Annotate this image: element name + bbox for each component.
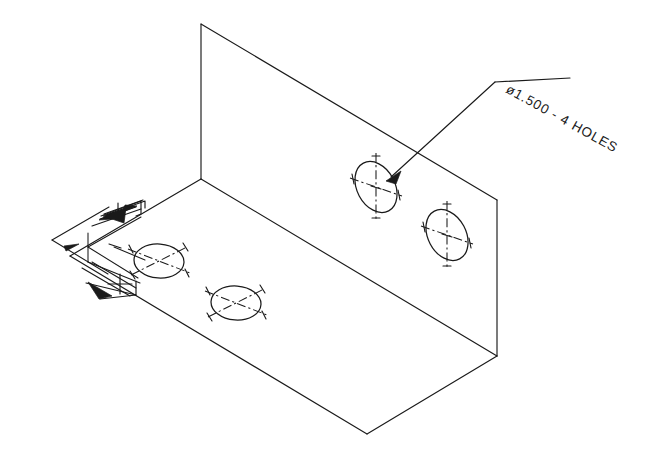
base-face-left-edge xyxy=(70,179,201,256)
extension-line-inner-upper xyxy=(88,217,141,247)
hole-note-text: ø1.500 - 4 HOLES xyxy=(504,82,621,156)
hole-note-leader-group: ø1.500 - 4 HOLES xyxy=(386,78,621,184)
centerline-tick-left-a xyxy=(129,245,133,253)
centerline-tick-right-a xyxy=(185,269,189,277)
hole-group-vertical xyxy=(347,153,477,269)
base-face-front-left-edge xyxy=(70,256,367,434)
leader-shoulder xyxy=(495,78,570,82)
hole-vertical-left xyxy=(347,153,406,221)
leader-arrow-head xyxy=(386,171,401,184)
hole-vertical-right xyxy=(418,201,477,269)
hole-horizontal-right xyxy=(205,284,267,321)
extension-line-inner-lower xyxy=(88,247,138,278)
centerline-tick-right-b xyxy=(260,285,265,293)
base-face-front-right-edge xyxy=(367,356,497,434)
centerline-tick-right-a xyxy=(262,311,266,319)
centerline-tick-left-b xyxy=(207,313,212,321)
hole-group-horizontal xyxy=(128,242,267,321)
centerline-tick-right-b xyxy=(183,243,188,251)
dimension-connector-line-lower xyxy=(88,262,140,283)
hole-horizontal-left xyxy=(128,242,190,279)
inner-corner-fold-line xyxy=(201,179,497,356)
centerline-tick-left-a xyxy=(206,287,210,295)
cad-drawing-canvas: ø1.500 - 4 HOLES xyxy=(0,0,668,474)
vertical-face-top-edge xyxy=(201,24,497,200)
cad-drawing-svg: ø1.500 - 4 HOLES xyxy=(0,0,668,474)
extension-line-outer-lower xyxy=(52,240,108,274)
leader-pointer-line xyxy=(391,82,495,177)
part-outline xyxy=(70,24,497,434)
dimension-arrow-left-apex xyxy=(64,244,79,251)
